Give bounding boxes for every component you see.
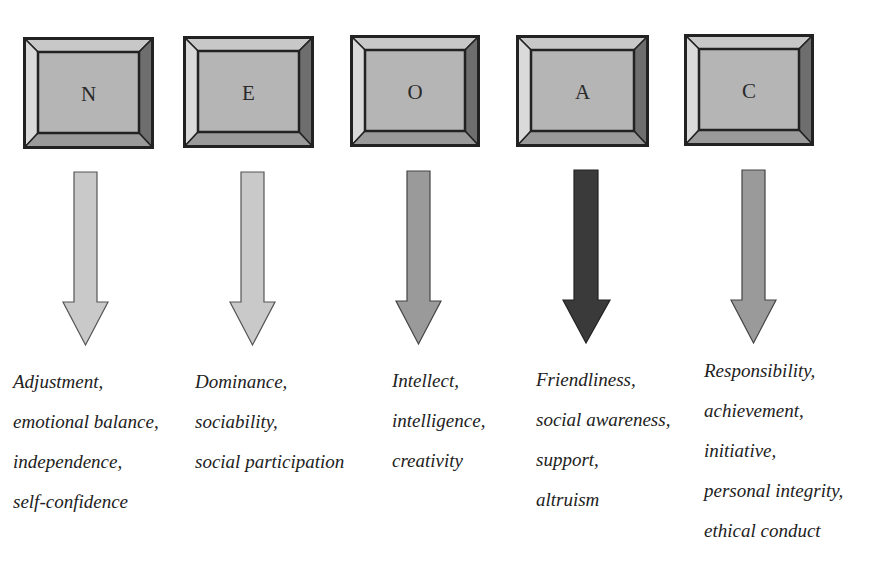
factor-box-o: O (350, 35, 480, 147)
trait: social awareness, (536, 400, 670, 440)
down-arrow-icon (562, 169, 612, 345)
trait: Responsibility, (704, 351, 843, 391)
trait: personal integrity, (704, 471, 843, 511)
trait: emotional balance, (13, 402, 159, 442)
factor-box-e: E (183, 36, 314, 148)
trait: achievement, (704, 391, 843, 431)
traits-c: Responsibility, achievement, initiative,… (704, 351, 843, 551)
trait: Friendliness, (536, 360, 670, 400)
factor-letter: N (23, 37, 154, 149)
trait: support, (536, 440, 670, 480)
trait: social participation (195, 442, 344, 482)
factor-box-a: A (516, 35, 649, 147)
traits-o: Intellect, intelligence, creativity (392, 361, 485, 481)
trait: independence, (13, 442, 159, 482)
trait: ethical conduct (704, 511, 843, 551)
factor-letter: E (183, 36, 314, 148)
trait: Intellect, (392, 361, 485, 401)
factor-box-n: N (23, 37, 154, 149)
traits-e: Dominance, sociability, social participa… (195, 362, 344, 482)
factor-letter: C (684, 34, 814, 146)
factor-letter: A (516, 35, 649, 147)
trait: sociability, (195, 402, 344, 442)
factor-letter: O (350, 35, 480, 147)
trait: intelligence, (392, 401, 485, 441)
trait: altruism (536, 480, 670, 520)
trait: creativity (392, 441, 485, 481)
down-arrow-icon (62, 171, 110, 347)
trait: initiative, (704, 431, 843, 471)
down-arrow-icon (730, 169, 778, 345)
traits-a: Friendliness, social awareness, support,… (536, 360, 670, 520)
down-arrow-icon (229, 171, 277, 347)
down-arrow-icon (395, 170, 443, 346)
factor-box-c: C (684, 34, 814, 146)
traits-n: Adjustment, emotional balance, independe… (13, 362, 159, 522)
trait: Adjustment, (13, 362, 159, 402)
trait: Dominance, (195, 362, 344, 402)
trait: self-confidence (13, 482, 159, 522)
